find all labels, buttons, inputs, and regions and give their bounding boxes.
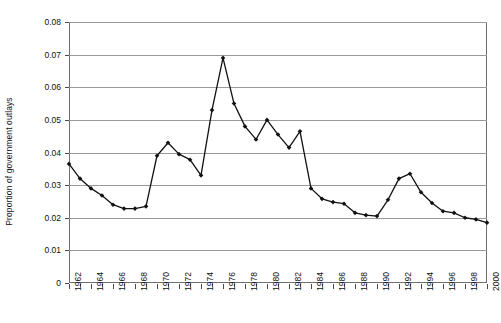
data-point-marker [122,206,127,211]
data-point-marker [210,108,215,113]
data-point-marker [221,56,226,61]
data-point-marker [474,217,479,222]
data-point-marker [397,176,402,181]
data-series-line [0,0,501,323]
data-point-marker [452,211,457,216]
data-point-marker [144,204,149,209]
chart-figure: Proportion of government outlays 00.010.… [0,0,501,323]
series-polyline [69,58,487,223]
data-point-marker [485,220,490,225]
data-point-marker [232,101,237,106]
data-point-marker [463,215,468,220]
data-point-marker [331,200,336,205]
data-point-marker [133,206,138,211]
data-point-marker [364,213,369,218]
